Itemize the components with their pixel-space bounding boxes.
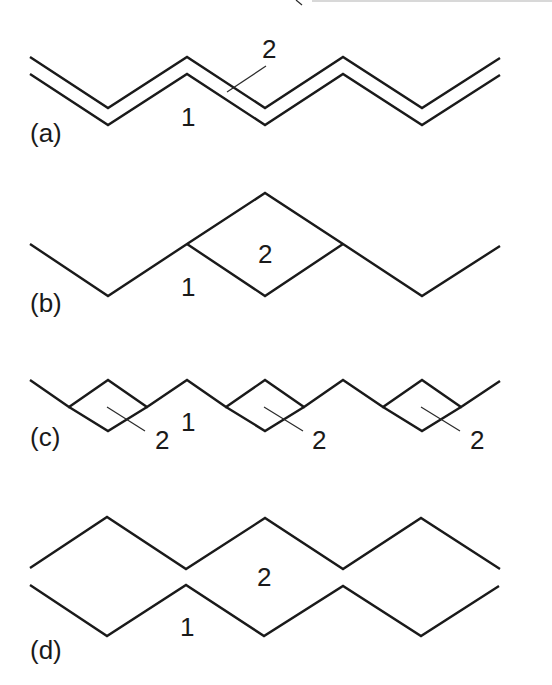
panel-label-a: (a) (30, 118, 62, 148)
panel-label-b: (b) (30, 288, 62, 318)
panel-label-c: (c) (30, 422, 60, 452)
part-label-2c: 2 (470, 425, 484, 455)
top-crop-fragment (296, 0, 552, 5)
part-label-1: 1 (180, 612, 194, 642)
part-label-1: 1 (181, 272, 195, 302)
part-label-2b: 2 (312, 425, 326, 455)
part-label-1: 1 (181, 102, 195, 132)
panel-label-d: (d) (30, 635, 62, 665)
figure-canvas: 2 1 (a) 2 1 (b) 2 1 2 2 (c) (0, 0, 552, 685)
part-label-2: 2 (257, 562, 271, 592)
zigzag-line-2 (30, 57, 500, 108)
zigzag-diagram: 2 1 (a) 2 1 (b) 2 1 2 2 (c) (0, 0, 552, 685)
zigzag-line-1 (30, 380, 500, 407)
part-label-2: 2 (258, 239, 272, 269)
panel-a: 2 1 (a) (30, 34, 500, 148)
part-label-2: 2 (262, 34, 276, 64)
diamond-2-lower (226, 407, 304, 431)
leader-line-2 (227, 66, 266, 92)
panel-d: 2 1 (d) (30, 517, 500, 665)
diamond-3-lower (383, 407, 461, 431)
panel-c: 2 1 2 2 (c) (30, 380, 500, 455)
part-label-1: 1 (181, 407, 195, 437)
panel-b: 2 1 (b) (30, 193, 500, 318)
part-label-2a: 2 (155, 425, 169, 455)
zigzag-line-lower (30, 585, 499, 636)
zigzag-line-1 (30, 74, 500, 125)
diamond-1-lower (69, 407, 147, 431)
